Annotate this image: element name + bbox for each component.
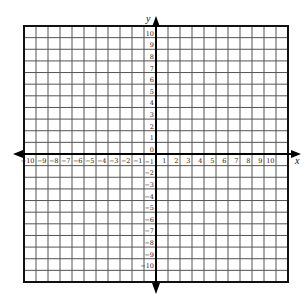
x-tick-label: −4 xyxy=(97,157,107,165)
x-axis-label: x xyxy=(294,155,300,166)
x-tick-label: −5 xyxy=(85,157,95,165)
y-tick-label: 2 xyxy=(150,123,154,131)
y-tick-label: 7 xyxy=(150,65,154,73)
x-tick-label: −9 xyxy=(37,157,47,165)
x-tick-label: 4 xyxy=(198,157,202,165)
x-tick-label: −7 xyxy=(61,157,71,165)
y-tick-label: −2 xyxy=(144,169,154,177)
x-tick-label: −1 xyxy=(133,157,143,165)
x-tick-label: −2 xyxy=(121,157,131,165)
coordinate-plane: −10−9−8−7−6−5−4−3−2−112345678910 1098765… xyxy=(0,0,307,305)
y-tick-label: 5 xyxy=(150,88,154,96)
y-tick-label: −1 xyxy=(144,158,154,166)
y-tick-label: −10 xyxy=(140,262,154,270)
y-tick-label: 3 xyxy=(150,111,154,119)
y-tick-label: −6 xyxy=(144,216,154,224)
y-tick-label: 1 xyxy=(150,134,154,142)
y-axis-tick-labels: 109876543210−1−2−3−4−5−6−7−8−9−10 xyxy=(140,30,154,271)
axes xyxy=(13,16,301,294)
y-axis-label: y xyxy=(145,13,151,24)
x-tick-label: 9 xyxy=(258,157,262,165)
y-axis-up-arrow-icon xyxy=(152,16,160,27)
x-tick-label: 6 xyxy=(222,157,226,165)
y-tick-label: −5 xyxy=(144,204,154,212)
x-tick-label: −10 xyxy=(21,157,35,165)
y-tick-label: −7 xyxy=(144,227,154,235)
y-tick-label: 8 xyxy=(150,53,154,61)
x-tick-label: −6 xyxy=(73,157,83,165)
y-tick-label: 4 xyxy=(150,99,154,107)
x-tick-label: 1 xyxy=(162,157,166,165)
y-tick-label: 9 xyxy=(150,41,154,49)
x-tick-label: −8 xyxy=(49,157,59,165)
x-tick-label: 2 xyxy=(174,157,178,165)
y-tick-label: −9 xyxy=(144,251,154,259)
y-tick-label: 0 xyxy=(150,146,154,154)
y-axis-down-arrow-icon xyxy=(152,283,160,294)
y-tick-label: 6 xyxy=(150,76,154,84)
x-tick-label: 3 xyxy=(186,157,190,165)
y-tick-label: −3 xyxy=(144,181,154,189)
y-tick-label: 10 xyxy=(146,30,154,38)
y-tick-label: −8 xyxy=(144,239,154,247)
x-tick-label: −3 xyxy=(109,157,119,165)
x-tick-label: 10 xyxy=(266,157,274,165)
x-tick-label: 5 xyxy=(210,157,214,165)
x-tick-label: 8 xyxy=(246,157,250,165)
x-tick-label: 7 xyxy=(234,157,238,165)
y-tick-label: −4 xyxy=(144,193,154,201)
